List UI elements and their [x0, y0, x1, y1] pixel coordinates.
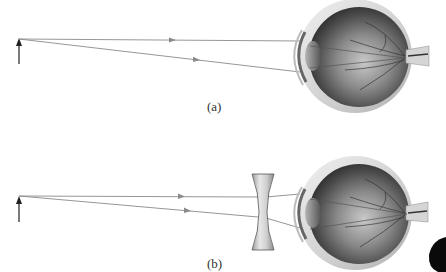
panel-b-label: (b)	[207, 256, 222, 272]
object-arrow-a	[16, 38, 22, 64]
eyeball-a	[294, 0, 429, 113]
ray-direction-arrow-icon	[178, 194, 185, 200]
panel-b	[16, 156, 428, 270]
object-arrow-b	[16, 196, 22, 222]
diverging-lens	[252, 174, 274, 250]
panel-a-label: (a)	[207, 99, 221, 115]
light-rays-a	[19, 38, 300, 73]
ray-direction-arrow-icon	[184, 208, 191, 214]
panel-a	[16, 0, 429, 113]
ray-direction-arrow-icon	[193, 57, 200, 62]
cropped-black-shape	[429, 237, 446, 272]
figure-canvas	[0, 0, 446, 272]
eyeball-b	[294, 156, 428, 270]
ray-direction-arrow-icon	[169, 38, 176, 43]
